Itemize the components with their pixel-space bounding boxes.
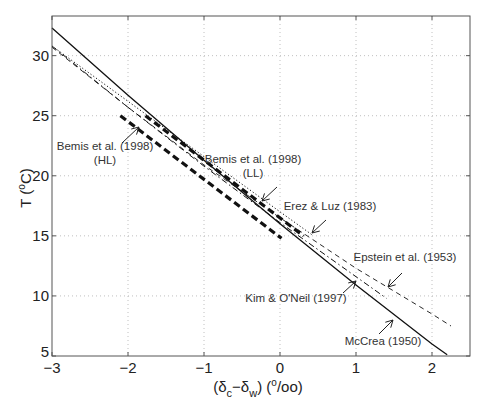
annotation-label: (HL) <box>94 154 117 166</box>
data-series <box>52 28 451 355</box>
y-tick-label: 30 <box>32 47 49 64</box>
x-tick-label: −3 <box>43 359 60 376</box>
x-tick-label: 1 <box>352 359 360 376</box>
x-tick-label: 0 <box>276 359 284 376</box>
annotation-label: Bemis et al. (1998) <box>205 153 302 165</box>
annotation-label: Epstein et al. (1953) <box>354 251 457 263</box>
x-tick-label: −1 <box>195 359 212 376</box>
series-line <box>146 116 304 236</box>
y-tick-label: 25 <box>32 107 49 124</box>
x-tick-label: −2 <box>119 359 136 376</box>
plot-frame <box>52 16 470 356</box>
annotation-label: McCrea (1950) <box>345 335 422 347</box>
y-tick-label: 5 <box>41 343 49 360</box>
chart: −3−2−101251015202530 Bemis et al. (1998)… <box>0 0 485 417</box>
x-tick-label: 2 <box>428 359 436 376</box>
annotation-label: Erez & Luz (1983) <box>284 200 377 212</box>
y-tick-label: 20 <box>32 167 49 184</box>
y-axis-label: T (oC) <box>16 168 34 207</box>
x-axis-label: (δc−δw) (o/oo) <box>213 377 303 399</box>
annotation-label: (LL) <box>243 167 264 179</box>
grid-lines <box>52 16 470 356</box>
y-tick-label: 10 <box>32 287 49 304</box>
annotation-label: Bemis et al. (1998) <box>57 140 154 152</box>
annotation-label: Kim & O'Neil (1997) <box>245 292 346 304</box>
series-line <box>52 28 447 355</box>
annotations: Bemis et al. (1998)(HL)Bemis et al. (199… <box>57 127 457 347</box>
y-tick-label: 15 <box>32 227 49 244</box>
